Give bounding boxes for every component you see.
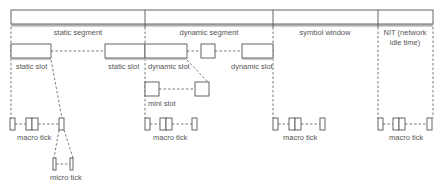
macro-tick-group-1 <box>10 118 64 130</box>
mini-slot-label: mini slot <box>148 99 176 108</box>
macro-tick-group-3 <box>273 118 325 130</box>
macro-tick-label-1: macro tick <box>17 133 51 142</box>
cycle-bar <box>11 10 433 27</box>
segment-label-nit: NIT (network <box>384 28 427 37</box>
macro-tick-label-3: macro tick <box>283 133 317 142</box>
macro-tick-label-2: macro tick <box>153 133 187 142</box>
segment-label-dynamic: dynamic segment <box>180 28 240 37</box>
segment-label-static: static segment <box>54 28 103 37</box>
static-slots <box>11 44 145 60</box>
dynamic-slot-label-1: dynamic slot <box>148 62 191 71</box>
static-slot-label-2: static slot <box>108 62 140 71</box>
dynamic-slots <box>145 44 273 60</box>
micro-tick-group <box>53 130 73 170</box>
static-slot-expand-line <box>51 60 62 118</box>
macro-tick-label-4: macro tick <box>389 133 423 142</box>
micro-tick-label: micro tick <box>50 173 82 182</box>
flexray-cycle-diagram: static segment dynamic segment symbol wi… <box>0 0 439 184</box>
segment-dividers <box>11 27 433 118</box>
macro-tick-group-2 <box>145 118 197 130</box>
dynamic-slot-label-2: dynamic slot <box>231 62 274 71</box>
segment-label-symbol-window: symbol window <box>300 28 351 37</box>
static-slot-label-1: static slot <box>16 62 48 71</box>
macro-tick-group-4 <box>378 118 432 130</box>
segment-label-nit-line2: idle time) <box>390 38 421 47</box>
